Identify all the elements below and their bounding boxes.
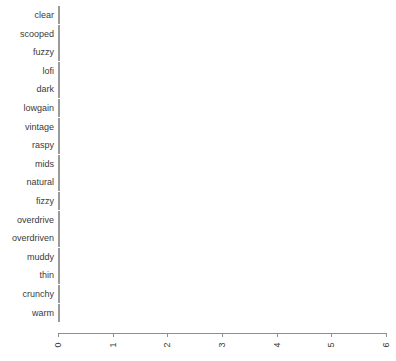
category-label-overdriven: overdriven — [0, 229, 54, 247]
category-label-scooped: scooped — [0, 25, 54, 43]
category-label-crunchy: crunchy — [0, 285, 54, 303]
category-label-clear: clear — [0, 6, 54, 24]
bar-overdrive — [58, 211, 222, 229]
x-tick-label-2: 2 — [162, 338, 172, 352]
bar-lofi — [58, 62, 167, 80]
x-tick-mark-6 — [386, 333, 387, 337]
category-label-vintage: vintage — [0, 118, 54, 136]
bar-crunchy — [58, 285, 331, 303]
bar-chart: clearscoopedfuzzylofidarklowgainvintager… — [0, 0, 396, 361]
bar-rect — [58, 62, 60, 80]
x-tick-label-5: 5 — [326, 338, 336, 352]
bar-overdriven — [58, 229, 222, 247]
category-label-raspy: raspy — [0, 136, 54, 154]
category-label-overdrive: overdrive — [0, 211, 54, 229]
category-label-fizzy: fizzy — [0, 192, 54, 210]
bar-rect — [58, 266, 60, 284]
bar-rect — [58, 43, 60, 61]
x-tick-mark-0 — [58, 333, 59, 337]
bar-rect — [58, 192, 60, 210]
bar-muddy — [58, 248, 222, 266]
bar-clear — [58, 6, 167, 24]
bar-fizzy — [58, 192, 222, 210]
bar-rect — [58, 25, 60, 43]
bar-rect — [58, 304, 60, 322]
bar-rect — [58, 80, 60, 98]
bar-raspy — [58, 136, 167, 154]
bar-warm — [58, 304, 386, 322]
category-label-fuzzy: fuzzy — [0, 43, 54, 61]
category-label-warm: warm — [0, 304, 54, 322]
category-label-lowgain: lowgain — [0, 99, 54, 117]
category-label-mids: mids — [0, 155, 54, 173]
bar-rect — [58, 285, 60, 303]
bar-vintage — [58, 118, 167, 136]
bar-natural — [58, 173, 167, 191]
bar-rect — [58, 118, 60, 136]
x-tick-label-4: 4 — [272, 338, 282, 352]
bar-rect — [58, 6, 60, 24]
x-tick-label-3: 3 — [217, 338, 227, 352]
x-tick-label-6: 6 — [381, 338, 391, 352]
plot-area — [58, 0, 386, 333]
x-tick-mark-5 — [331, 333, 332, 337]
bar-rect — [58, 136, 60, 154]
bar-rect — [58, 211, 60, 229]
bar-scooped — [58, 25, 167, 43]
x-tick-mark-4 — [277, 333, 278, 337]
bar-rect — [58, 155, 60, 173]
x-tick-mark-1 — [113, 333, 114, 337]
bar-dark — [58, 80, 167, 98]
x-tick-label-0: 0 — [53, 338, 63, 352]
bar-fuzzy — [58, 43, 167, 61]
bar-mids — [58, 155, 167, 173]
x-tick-mark-3 — [222, 333, 223, 337]
x-tick-mark-2 — [167, 333, 168, 337]
x-tick-label-1: 1 — [108, 338, 118, 352]
bar-thin — [58, 266, 277, 284]
category-label-thin: thin — [0, 266, 54, 284]
category-label-lofi: lofi — [0, 62, 54, 80]
category-label-dark: dark — [0, 80, 54, 98]
category-label-natural: natural — [0, 173, 54, 191]
bar-rect — [58, 229, 60, 247]
bar-rect — [58, 99, 60, 117]
category-label-muddy: muddy — [0, 248, 54, 266]
bar-lowgain — [58, 99, 167, 117]
bar-rect — [58, 248, 60, 266]
bar-rect — [58, 173, 60, 191]
